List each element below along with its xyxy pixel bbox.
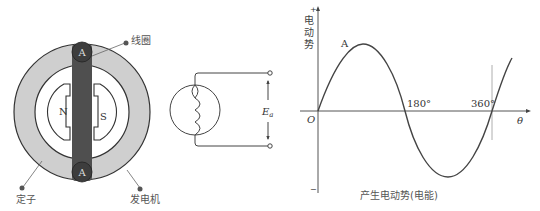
voltage-arrowhead-down [266, 136, 269, 140]
coil-callout-dot [124, 41, 129, 46]
diagram-canvas: A A N S 线圈 定子 发电机 Ea + − [0, 0, 540, 211]
generator-circuit-symbol [170, 71, 272, 148]
generator-cross-section: A A N S 线圈 定子 发电机 [14, 34, 160, 205]
upper-terminal [268, 71, 272, 75]
coil-bar [72, 44, 92, 181]
y-plus-label: + [310, 5, 317, 14]
point-a-label: A [340, 38, 349, 49]
x-tick-360: 360° [471, 98, 495, 109]
lower-lead-wire [195, 135, 268, 146]
generator-label: 发电机 [130, 193, 160, 205]
chart-title: 产生电动势(电能) [360, 189, 438, 201]
stator-callout-dot [20, 186, 25, 191]
stator-label: 定子 [16, 193, 36, 205]
generator-callout-line [127, 170, 140, 188]
voltage-arrowhead-up [266, 80, 269, 84]
y-minus-label: − [310, 185, 317, 194]
north-pole-label: N [59, 106, 68, 117]
y-axis-label: 电动势 [304, 14, 314, 50]
coil-side-bottom-label: A [77, 167, 86, 178]
stator-callout-line [23, 161, 42, 187]
x-axis-label: θ [517, 115, 523, 126]
x-axis-arrow [526, 109, 531, 113]
voltage-label: Ea [261, 106, 274, 119]
coil-side-top-label: A [77, 47, 86, 58]
coil-label: 线圈 [131, 34, 151, 46]
x-tick-180: 180° [407, 98, 431, 109]
origin-label: O [307, 114, 315, 125]
south-pole-label: S [100, 111, 107, 122]
upper-lead-wire [195, 73, 268, 85]
lower-terminal [268, 144, 272, 148]
winding-coil-icon [192, 85, 200, 135]
generator-callout-dot [138, 187, 143, 192]
emf-chart: + − 电动势 O A 180° 360° θ 产生电动势(电能) [300, 5, 531, 201]
